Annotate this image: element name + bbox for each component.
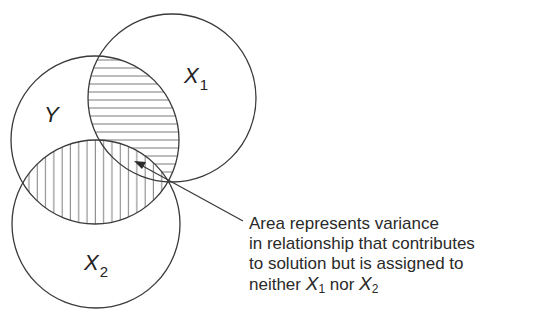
line4-mid: nor bbox=[325, 275, 359, 294]
label-x1-letter: X bbox=[183, 63, 200, 88]
label-x2-sub: 2 bbox=[100, 263, 108, 280]
line4-var2: X bbox=[359, 273, 372, 294]
annotation-line-2: in relationship that contributes bbox=[249, 234, 475, 254]
label-x2-letter: X bbox=[83, 250, 100, 275]
annotation-line-3: to solution but is assigned to bbox=[249, 254, 475, 274]
line4-sub2: 2 bbox=[372, 282, 379, 296]
label-x2: X2 bbox=[83, 250, 108, 280]
label-x1: X1 bbox=[183, 63, 208, 93]
annotation-text: Area represents variance in relationship… bbox=[249, 214, 475, 299]
annotation-line-1: Area represents variance bbox=[249, 214, 475, 234]
label-x1-sub: 1 bbox=[200, 76, 208, 93]
annotation-line-4: neither X1 nor X2 bbox=[249, 274, 475, 299]
line4-prefix: neither bbox=[249, 275, 306, 294]
label-y: Y bbox=[44, 102, 60, 127]
line4-var1: X bbox=[306, 273, 319, 294]
